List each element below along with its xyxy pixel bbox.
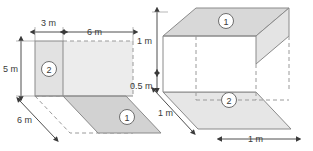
left-base-face-1: [63, 96, 161, 133]
right-dim-width-1m-text: 1 m: [248, 134, 263, 144]
left-part-label-1-group: 1: [120, 110, 135, 125]
left-part-1-text: 1: [124, 113, 129, 123]
right-dim-width-1m-group: 1 m: [222, 134, 296, 144]
right-part-2-text: 2: [226, 96, 231, 106]
left-dim-3m-group: 3 m: [35, 18, 63, 41]
right-body-front-face: [163, 36, 256, 92]
left-dim-3m-text: 3 m: [41, 18, 56, 28]
right-part-1-text: 1: [223, 17, 228, 27]
figure-canvas: 2 1 3 m 6 m: [0, 0, 313, 151]
left-part-label-2-group: 2: [42, 62, 57, 77]
right-dim-depth-1m-text: 1 m: [158, 108, 173, 118]
left-dim-depth-6m-group: 6 m: [17, 101, 55, 138]
left-part-2-text: 2: [46, 65, 51, 75]
left-dim-6m-group: 6 m: [65, 27, 133, 41]
right-dim-1m-height-text: 1 m: [137, 36, 152, 46]
left-dim-5m-group: 5 m: [3, 41, 35, 96]
left-dim-depth-6m-text: 6 m: [17, 115, 32, 125]
geometry-figure-container: 2 1 3 m 6 m: [0, 0, 313, 151]
right-dim-05m-group: 0.5 m: [130, 74, 157, 91]
left-dim-6m-text: 6 m: [87, 27, 102, 37]
left-dim-5m-text: 5 m: [3, 64, 18, 74]
left-panel-large-face: [63, 41, 133, 96]
right-dim-05m-text: 0.5 m: [130, 81, 153, 91]
right-part-label-1-group: 1: [219, 14, 234, 29]
right-part-label-2-group: 2: [222, 93, 237, 108]
right-figure-group: 1 2 1 m 0.5 m 1 m: [130, 8, 296, 144]
